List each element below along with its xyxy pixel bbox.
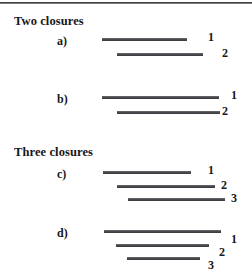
bar-number-label: 1 xyxy=(208,30,214,45)
bar-number-label: 3 xyxy=(208,258,214,273)
closure-bar xyxy=(127,257,200,260)
closure-bar xyxy=(103,171,191,174)
closure-bar xyxy=(117,185,215,188)
closure-bar xyxy=(117,111,220,114)
panel-label: c) xyxy=(57,167,66,182)
closure-bar xyxy=(102,96,219,99)
closure-bar xyxy=(116,244,209,247)
top-rule-divider xyxy=(0,2,252,4)
bar-number-label: 2 xyxy=(222,46,228,61)
group-heading: Three closures xyxy=(14,145,93,160)
closures-figure: Two closuresa)12b)12Three closuresc)123d… xyxy=(0,0,252,277)
panel-label: d) xyxy=(57,226,68,241)
bar-number-label: 2 xyxy=(221,178,227,193)
panel-label: a) xyxy=(57,34,67,49)
group-heading: Two closures xyxy=(14,14,84,29)
panel-label: b) xyxy=(57,92,68,107)
bar-number-label: 1 xyxy=(231,232,237,247)
bar-number-label: 2 xyxy=(222,104,228,119)
closure-bar xyxy=(104,230,221,233)
bar-number-label: 3 xyxy=(231,191,237,206)
bar-number-label: 1 xyxy=(208,163,214,178)
bar-number-label: 2 xyxy=(219,245,225,260)
closure-bar xyxy=(117,53,203,56)
closure-bar xyxy=(128,198,225,201)
bar-number-label: 1 xyxy=(231,88,237,103)
closure-bar xyxy=(102,38,187,41)
